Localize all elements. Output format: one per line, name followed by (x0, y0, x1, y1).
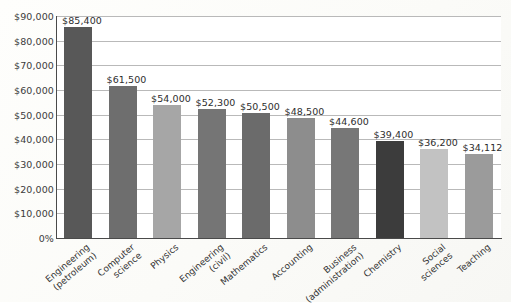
x-axis-tick-label: Teaching (456, 242, 493, 275)
gridline (56, 16, 501, 17)
bar-value-label: $61,500 (107, 74, 147, 85)
y-axis-tick-label: $20,000 (2, 183, 54, 194)
bar (153, 105, 181, 238)
gridline (56, 65, 501, 66)
x-axis-tick-label: Accounting (269, 242, 314, 282)
x-axis-tick-label: Physics (149, 242, 181, 271)
x-axis-tick-label: Chemistry (362, 242, 404, 280)
bar-value-label: $36,200 (418, 137, 458, 148)
y-axis-tick-label: $60,000 (2, 85, 54, 96)
y-axis-tick-label: $70,000 (2, 60, 54, 71)
y-axis-line (56, 16, 57, 239)
y-axis-tick-label: $90,000 (2, 11, 54, 22)
bar-value-label: $39,400 (374, 129, 414, 140)
bar (331, 128, 359, 238)
x-axis-tick-label: Socialsciences (404, 242, 455, 289)
y-axis-tick-label: $10,000 (2, 208, 54, 219)
y-axis-tick-label: $50,000 (2, 109, 54, 120)
bar (465, 154, 493, 238)
bar (287, 118, 315, 238)
x-axis-tick-label: Mathematics (219, 242, 270, 287)
bar (376, 141, 404, 238)
bar (198, 109, 226, 238)
plot-area: $85,400$61,500$54,000$52,300$50,500$48,5… (56, 16, 501, 238)
bar-value-label: $48,500 (285, 106, 325, 117)
x-axis-tick-label: Engineering(petroleum) (37, 242, 99, 299)
bar (242, 113, 270, 238)
x-axis-tick-label: Computerscience (96, 242, 144, 287)
bar-value-label: $44,600 (329, 116, 369, 127)
bar (109, 86, 137, 238)
x-axis-labels: Engineering(petroleum)ComputersciencePhy… (0, 238, 511, 302)
bar-value-label: $34,112 (463, 142, 503, 153)
gridline (56, 41, 501, 42)
bar (64, 27, 92, 238)
bar-value-label: $52,300 (196, 97, 236, 108)
bar (420, 149, 448, 238)
y-axis-tick-label: $40,000 (2, 134, 54, 145)
bar-value-label: $50,500 (240, 101, 280, 112)
bar-value-label: $85,400 (62, 15, 102, 26)
bar-value-label: $54,000 (151, 93, 191, 104)
y-axis-tick-label: $30,000 (2, 159, 54, 170)
y-axis-tick-label: $80,000 (2, 35, 54, 46)
